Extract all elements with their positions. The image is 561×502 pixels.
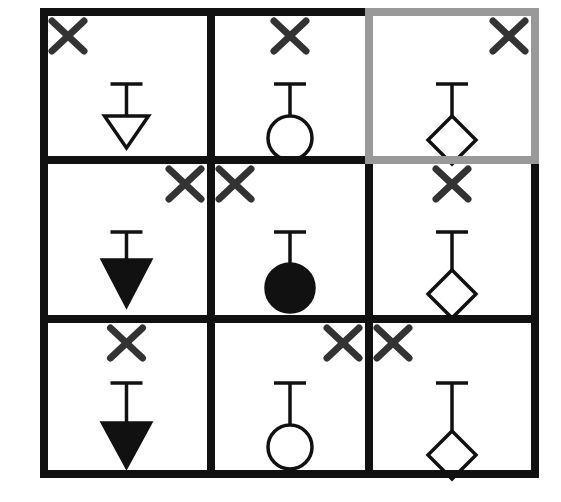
- cell-r2c2[interactable]: [211, 160, 369, 319]
- grid-lines: [0, 0, 561, 502]
- cell-r3c2[interactable]: [211, 319, 369, 474]
- cell-r3c3[interactable]: [369, 319, 535, 479]
- cell-r2c1[interactable]: [44, 160, 211, 319]
- puzzle-board: [0, 0, 561, 502]
- cell-r1c1[interactable]: [44, 12, 211, 160]
- cell-r1c2[interactable]: [211, 12, 369, 160]
- cell-r2c3[interactable]: [369, 160, 535, 319]
- cell-r3c1[interactable]: [44, 319, 211, 474]
- cell-r1c3[interactable]: [369, 12, 535, 164]
